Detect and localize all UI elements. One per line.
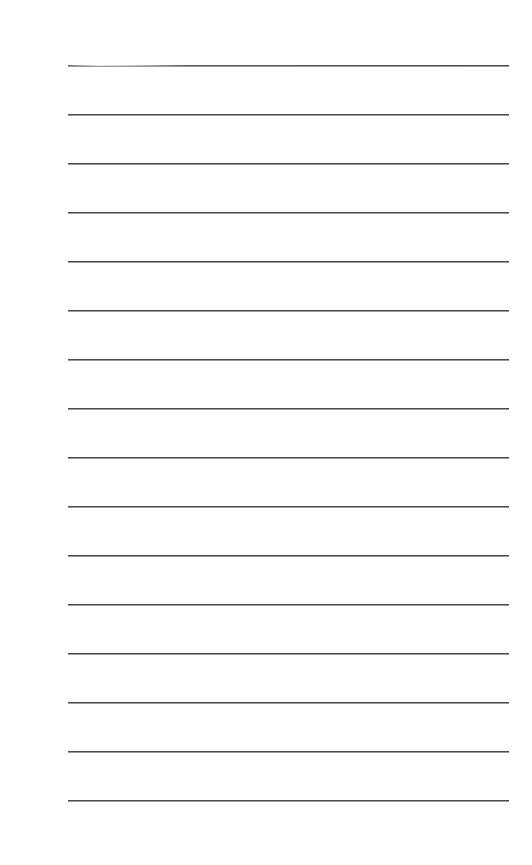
ruled-line [68,506,509,508]
ruled-line [68,800,509,802]
ruled-line [68,114,509,116]
ruled-line [68,212,509,214]
ruled-line [68,359,509,361]
ruled-line [68,163,509,165]
ruled-line [68,653,509,655]
ruled-line [68,702,509,704]
ruled-line [68,604,509,606]
ruled-line [68,261,509,263]
ruled-line [68,310,509,312]
ruled-line [68,457,509,459]
ruled-line [68,65,509,67]
ruled-line [68,555,509,557]
ruled-line [68,408,509,410]
lined-paper-page [0,0,532,865]
ruled-line [68,751,509,753]
